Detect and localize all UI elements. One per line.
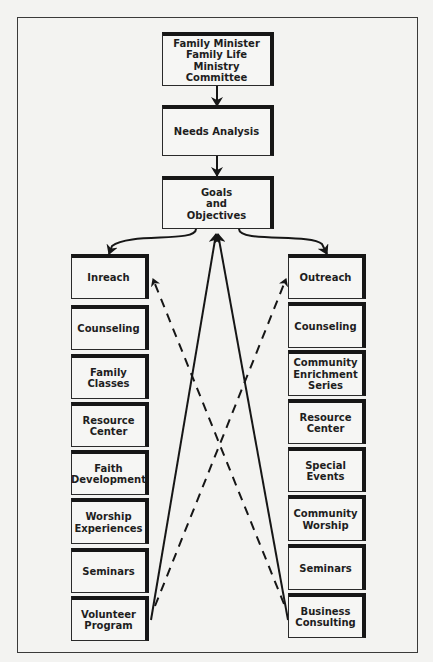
node-label: Community Worship	[293, 508, 357, 531]
node-inreach-seminars: Seminars	[71, 548, 149, 593]
node-label: Family Minister Family Life Ministry Com…	[165, 38, 268, 84]
node-business-consulting: Business Consulting	[288, 593, 366, 638]
node-label: Resource Center	[299, 412, 351, 435]
node-community-enrichment-series: Community Enrichment Series	[288, 350, 366, 396]
node-family-classes: Family Classes	[71, 354, 149, 399]
node-label: Business Consulting	[295, 606, 355, 629]
node-label: Worship Experiences	[74, 511, 142, 534]
node-inreach-resource-center: Resource Center	[71, 402, 149, 447]
connector-layer	[0, 0, 433, 662]
node-special-events: Special Events	[288, 447, 366, 492]
node-goals-objectives: Goals and Objectives	[162, 176, 274, 229]
arrow-goals-to-inreach	[109, 229, 196, 254]
dashed-arrow-volunteer-to-outreach	[155, 279, 286, 606]
node-volunteer-program: Volunteer Program	[71, 596, 149, 641]
node-label: Counseling	[294, 321, 356, 333]
arrow-volunteer-to-goals	[151, 234, 216, 620]
node-label: Outreach	[300, 272, 352, 284]
node-outreach-seminars: Seminars	[288, 544, 366, 590]
node-label: Special Events	[305, 460, 346, 483]
node-outreach-resource-center: Resource Center	[288, 399, 366, 444]
node-label: Needs Analysis	[174, 126, 259, 138]
node-label: Resource Center	[82, 415, 134, 438]
node-outreach: Outreach	[288, 254, 366, 299]
node-label: Family Classes	[87, 367, 129, 390]
node-inreach: Inreach	[71, 254, 149, 299]
node-needs-analysis: Needs Analysis	[162, 105, 274, 156]
node-family-minister-committee: Family Minister Family Life Ministry Com…	[162, 32, 274, 86]
node-community-worship: Community Worship	[288, 495, 366, 541]
node-label: Seminars	[299, 563, 352, 575]
node-label: Community Enrichment Series	[293, 357, 357, 392]
node-label: Counseling	[77, 323, 139, 335]
node-worship-experiences: Worship Experiences	[71, 498, 149, 544]
node-label: Goals and Objectives	[187, 187, 246, 222]
arrow-goals-to-outreach	[239, 229, 327, 254]
dashed-arrow-business-to-inreach	[153, 279, 284, 604]
arrow-business-to-goals	[218, 234, 288, 620]
node-label: Seminars	[82, 566, 135, 578]
node-label: Faith Development	[71, 463, 146, 486]
node-label: Volunteer Program	[81, 609, 136, 632]
node-label: Inreach	[87, 272, 129, 284]
node-inreach-counseling: Counseling	[71, 305, 149, 350]
node-faith-development: Faith Development	[71, 450, 149, 495]
node-outreach-counseling: Counseling	[288, 302, 366, 348]
